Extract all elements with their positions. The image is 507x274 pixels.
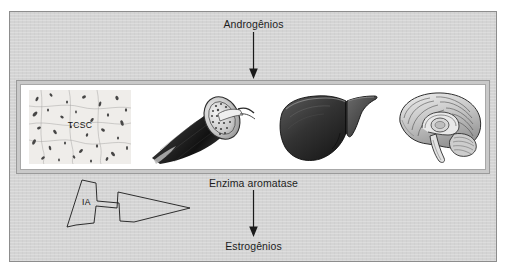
organ-brain: [385, 85, 486, 169]
organ-liver: [273, 85, 383, 169]
label-androgens: Androgênios: [0, 18, 507, 30]
liver-illustration: [276, 89, 380, 165]
arrow-androgens-to-tissues: [0, 32, 507, 80]
adipose-tissue-caption: TCSC: [29, 120, 131, 130]
tissue-strip: TCSC: [20, 84, 486, 170]
label-aromatase-inhibitor: IA: [82, 197, 91, 207]
organ-adipose-tissue: TCSC: [25, 85, 135, 169]
arrow-aromatase-inhibitor: IA: [60, 175, 212, 235]
tissue-strip-frame: TCSC: [16, 80, 490, 174]
organ-skeletal-muscle: [149, 85, 259, 169]
figure-canvas: Androgênios: [0, 0, 507, 274]
adipose-histology-image: TCSC: [29, 90, 131, 164]
brain-illustration: [388, 88, 486, 166]
label-estrogens: Estrogênios: [0, 240, 507, 252]
muscle-illustration: [150, 88, 258, 166]
